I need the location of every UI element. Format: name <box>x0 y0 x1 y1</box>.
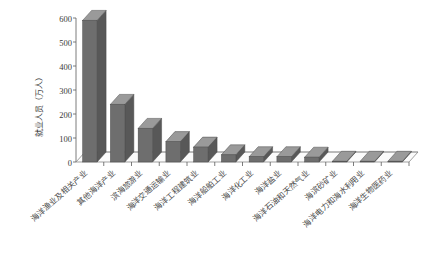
y-tick-400: 400 <box>59 62 72 72</box>
y-tick-500: 500 <box>59 38 72 48</box>
bar-front-face <box>249 157 263 162</box>
bar-front-face <box>388 161 402 162</box>
chart-container: 就业人员（万人） 600 500 400 300 200 100 0 <box>0 0 426 269</box>
y-tick-200: 200 <box>59 110 72 120</box>
bar-front-face <box>138 128 152 162</box>
y-axis <box>73 18 76 162</box>
bar-front-face <box>166 142 180 162</box>
y-axis-title: 就业人员（万人） <box>34 73 44 137</box>
y-axis-tick-labels: 600 500 400 300 200 100 0 <box>59 14 72 168</box>
bar-side-face <box>125 94 134 162</box>
bar-front-face <box>221 155 235 162</box>
y-tick-300: 300 <box>59 86 72 96</box>
x-axis-category-labels: 海洋渔业及相关产业其他海洋产业滨海旅游业海洋交通运输业海洋工程建筑业海洋船舶工业… <box>29 168 394 229</box>
bar-1 <box>83 10 106 162</box>
bar-front-face <box>305 157 319 162</box>
bar-front-face <box>360 161 374 162</box>
x-axis-ticks <box>104 162 409 166</box>
bar-front-face <box>332 161 346 162</box>
bar-side-face <box>97 10 106 162</box>
bar-2 <box>110 94 133 162</box>
bar-front-face <box>110 104 124 162</box>
bar-chart-3d: 就业人员（万人） 600 500 400 300 200 100 0 <box>0 0 426 269</box>
bar-front-face <box>83 20 97 162</box>
y-tick-600: 600 <box>59 14 72 24</box>
bar-front-face <box>194 147 208 162</box>
bar-3 <box>138 118 161 162</box>
y-tick-100: 100 <box>59 134 72 144</box>
bar-front-face <box>277 157 291 162</box>
bars-group <box>83 10 412 162</box>
y-tick-0: 0 <box>68 158 72 168</box>
